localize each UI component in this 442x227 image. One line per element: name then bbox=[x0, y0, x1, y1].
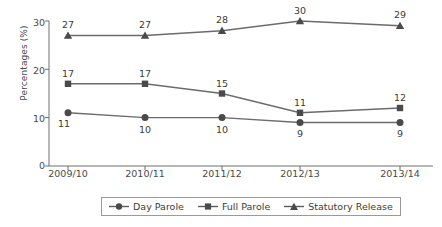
point-label-day-4: 9 bbox=[380, 128, 420, 139]
point-label-statutory-2: 28 bbox=[202, 14, 242, 25]
legend-item-full-parole[interactable]: Full Parole bbox=[198, 201, 270, 212]
legend-item-day-parole[interactable]: Day Parole bbox=[109, 201, 184, 212]
legend-label-statutory-release: Statutory Release bbox=[308, 201, 393, 212]
line-chart: Percentages (%) 30 20 10 0 bbox=[0, 0, 442, 227]
point-label-day-1: 10 bbox=[125, 124, 165, 135]
point-label-full-4: 12 bbox=[380, 92, 420, 103]
circle-marker-icon bbox=[109, 201, 129, 212]
axis-lines bbox=[45, 21, 433, 170]
x-tick-2012-13: 2012/13 bbox=[262, 168, 338, 179]
chart-legend: Day Parole Full Parole Statutory Release bbox=[101, 197, 401, 216]
x-tick-2013-14: 2013/14 bbox=[362, 168, 438, 179]
point-label-statutory-3: 30 bbox=[280, 5, 320, 16]
x-tick-2009-10: 2009/10 bbox=[30, 168, 106, 179]
legend-item-statutory-release[interactable]: Statutory Release bbox=[284, 201, 393, 212]
point-label-day-3: 9 bbox=[280, 128, 320, 139]
point-label-day-2: 10 bbox=[202, 124, 242, 135]
point-label-full-1: 17 bbox=[125, 68, 165, 79]
square-marker-icon bbox=[198, 201, 218, 212]
plot-area bbox=[0, 0, 442, 227]
triangle-marker-icon bbox=[284, 201, 304, 212]
x-tick-2011-12: 2011/12 bbox=[184, 168, 260, 179]
point-label-full-3: 11 bbox=[280, 97, 320, 108]
x-tick-2010-11: 2010/11 bbox=[107, 168, 183, 179]
point-label-statutory-0: 27 bbox=[48, 19, 88, 30]
legend-label-day-parole: Day Parole bbox=[133, 201, 184, 212]
point-label-day-0: 11 bbox=[44, 118, 84, 129]
point-label-statutory-4: 29 bbox=[380, 9, 420, 20]
point-label-full-0: 17 bbox=[48, 68, 88, 79]
point-label-full-2: 15 bbox=[202, 78, 242, 89]
point-label-statutory-1: 27 bbox=[125, 19, 165, 30]
legend-label-full-parole: Full Parole bbox=[222, 201, 270, 212]
